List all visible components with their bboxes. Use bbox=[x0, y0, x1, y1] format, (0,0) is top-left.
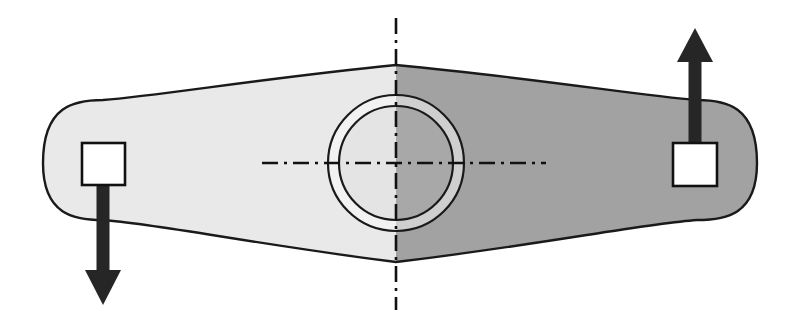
left-force-arrow bbox=[82, 143, 125, 305]
right-load-pad bbox=[673, 143, 717, 186]
left-load-pad bbox=[82, 143, 125, 185]
left-arrow-shaft bbox=[97, 185, 110, 278]
right-arrow-shaft bbox=[689, 55, 702, 143]
right-arrow-head bbox=[677, 28, 713, 62]
diagram-canvas bbox=[0, 0, 799, 328]
left-arrow-head bbox=[85, 270, 121, 305]
free-body-diagram bbox=[0, 0, 799, 328]
